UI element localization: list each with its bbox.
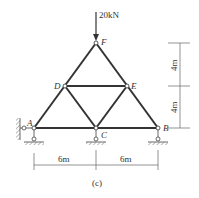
truss-members xyxy=(34,43,158,128)
truss-diagram: 20kN F D E A C B 6m 6m 4m 4m (c) xyxy=(0,0,199,198)
dim-label-6m-right: 6m xyxy=(120,154,132,164)
dim-label-4m-bottom: 4m xyxy=(169,101,179,113)
caption: (c) xyxy=(92,178,102,188)
dim-label-4m-top: 4m xyxy=(169,59,179,71)
node-label-e: E xyxy=(130,81,137,91)
load-label: 20kN xyxy=(99,10,120,20)
node-label-a: A xyxy=(26,118,33,128)
node-label-d: D xyxy=(53,81,61,91)
node-label-f: F xyxy=(100,37,107,47)
node-label-c: C xyxy=(101,130,108,140)
dim-label-6m-left: 6m xyxy=(58,154,70,164)
